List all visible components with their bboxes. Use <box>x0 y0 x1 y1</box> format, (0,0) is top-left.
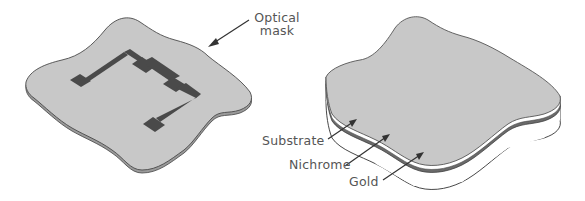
gold-label: Gold <box>349 175 379 188</box>
substrate-label: Substrate <box>262 134 324 147</box>
optical-mask-label: Optical mask <box>252 11 302 37</box>
optical-mask-illustration <box>26 18 252 173</box>
optical-mask-arrow <box>208 20 249 47</box>
layered-substrate-illustration <box>326 17 560 190</box>
optical-mask-label-line2: mask <box>252 24 302 37</box>
nichrome-label: Nichrome <box>289 158 351 171</box>
